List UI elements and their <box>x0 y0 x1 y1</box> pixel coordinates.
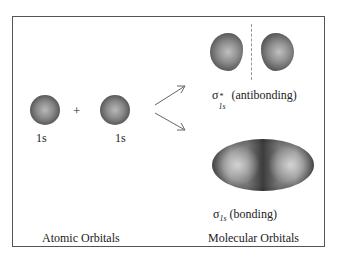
star-superscript: * <box>219 93 223 101</box>
label-1s-right-text: 1s <box>115 131 126 145</box>
label-1s-left-text: 1s <box>36 131 47 145</box>
atomic-orbital-1s-right <box>100 95 130 125</box>
antibonding-lobe-left <box>210 33 243 71</box>
plus-sign: + <box>73 104 80 117</box>
subscript-1s: 1s <box>219 214 226 223</box>
sigma-symbol: σ <box>212 88 218 102</box>
atomic-orbital-1s-left <box>30 95 60 125</box>
bonding-label: σ1s (bonding) <box>213 208 277 223</box>
bonding-text: (bonding) <box>230 207 277 221</box>
arrows-icon <box>150 80 195 135</box>
nodal-plane-line <box>251 24 252 80</box>
molecular-orbitals-caption: Molecular Orbitals <box>208 232 299 244</box>
antibonding-text: (antibonding) <box>231 88 296 102</box>
subscript-1s: 1s <box>218 103 225 111</box>
antibonding-label: σ*1s (antibonding) <box>212 89 297 101</box>
atomic-orbitals-caption: Atomic Orbitals <box>42 232 120 244</box>
label-1s-left: 1s <box>36 132 47 144</box>
label-1s-right: 1s <box>115 132 126 144</box>
bonding-orbital <box>212 139 314 191</box>
